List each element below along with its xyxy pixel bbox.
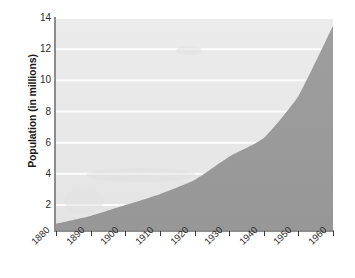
gridline [56, 18, 333, 19]
x-tick-mark [125, 231, 126, 236]
y-tick-label: 10 [31, 75, 51, 85]
x-tick-mark [298, 231, 299, 236]
gridline [56, 79, 333, 81]
plot-area [56, 18, 333, 230]
x-tick-mark [160, 231, 161, 236]
population-area-chart: Population (in millions) 2468101214 [0, 0, 355, 278]
y-tick-label: 14 [31, 13, 51, 23]
x-tick-mark [91, 231, 92, 236]
y-axis-line [54, 17, 56, 231]
y-tick-label: 2 [31, 200, 51, 210]
x-tick-mark [56, 231, 57, 236]
y-tick-label: 12 [31, 44, 51, 54]
y-tick-label: 6 [31, 138, 51, 148]
gridline [56, 48, 333, 50]
x-tick-mark [264, 231, 265, 236]
plot-svg [56, 18, 333, 230]
y-tick-label: 8 [31, 107, 51, 117]
y-tick-label: 4 [31, 169, 51, 179]
x-tick-mark [229, 231, 230, 236]
x-tick-mark [333, 231, 334, 236]
x-tick-mark [195, 231, 196, 236]
